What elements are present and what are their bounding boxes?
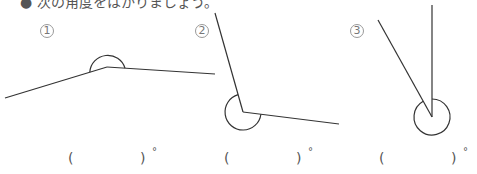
answer-1-blank[interactable] [78, 150, 138, 166]
angle-3-ray-diagonal [378, 20, 432, 117]
answer-1-open-paren: ( [68, 150, 73, 166]
answer-3-blank[interactable] [389, 150, 449, 166]
angle-figure-1 [5, 55, 215, 98]
angle-1-ray-left [5, 67, 107, 98]
answer-3-degree-unit: ° [463, 146, 468, 157]
answer-2-close-paren: ) [296, 150, 301, 166]
answer-1-close-paren: ) [140, 150, 145, 166]
answer-2-degree-unit: ° [308, 146, 313, 157]
angle-figures [0, 0, 477, 174]
angle-2-ray-up [215, 13, 243, 112]
answer-3-open-paren: ( [379, 150, 384, 166]
angle-1-arc [90, 55, 125, 72]
angle-1-ray-right [107, 67, 215, 74]
angle-figure-2 [215, 13, 339, 130]
answer-3-close-paren: ) [451, 150, 456, 166]
answer-1-degree-unit: ° [152, 146, 157, 157]
answer-2-blank[interactable] [234, 150, 294, 166]
angle-figure-3 [378, 5, 450, 135]
answer-2-open-paren: ( [224, 150, 229, 166]
